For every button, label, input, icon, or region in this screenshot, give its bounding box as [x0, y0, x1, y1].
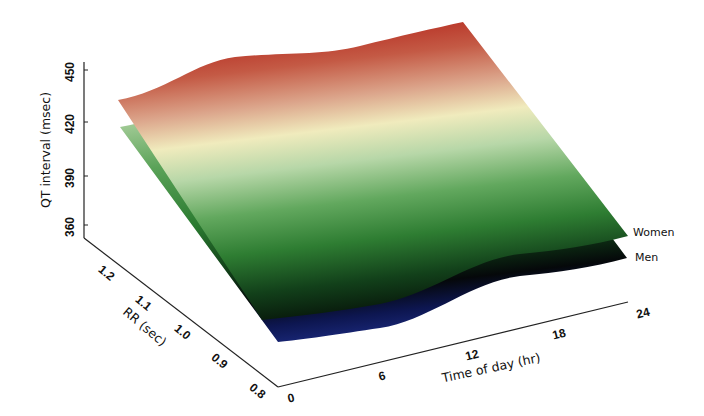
legend-women: Women: [633, 226, 674, 239]
svg-text:0.8: 0.8: [247, 380, 269, 402]
svg-text:24: 24: [635, 305, 652, 322]
women-surface: [118, 22, 628, 320]
svg-text:1.0: 1.0: [172, 321, 194, 343]
svg-text:6: 6: [377, 368, 387, 383]
legend-men: Men: [635, 251, 658, 264]
svg-text:18: 18: [551, 326, 568, 343]
svg-text:0: 0: [286, 390, 296, 405]
qt-surface-chart: 450 420 390 360 QT interval (msec) 1.2 1…: [0, 0, 704, 416]
svg-text:420: 420: [63, 114, 77, 134]
qt-tick-labels: 450 420 390 360: [63, 62, 77, 237]
svg-text:390: 390: [63, 168, 77, 188]
time-axis-title: Time of day (hr): [439, 350, 541, 386]
svg-text:360: 360: [63, 217, 77, 237]
svg-text:450: 450: [63, 62, 77, 82]
svg-text:0.9: 0.9: [209, 350, 231, 372]
svg-text:12: 12: [464, 347, 481, 364]
qt-axis-title: QT interval (msec): [38, 92, 53, 208]
svg-text:1.2: 1.2: [96, 262, 118, 284]
